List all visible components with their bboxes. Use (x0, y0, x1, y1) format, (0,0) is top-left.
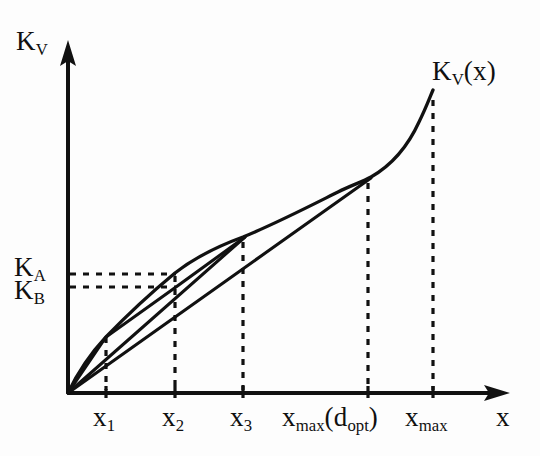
xmax-dopt-paren-open: (d (325, 402, 348, 432)
x-tick-label-x2: x2 (162, 404, 184, 434)
xmax-dopt-paren-close: ) (369, 402, 378, 432)
y-tick-label-kb: KB (14, 277, 45, 307)
curve-label: KV(x) (432, 58, 496, 88)
x-axis (68, 385, 510, 401)
curve-label-main: K (432, 56, 452, 86)
xmax-dopt-paren-sub: opt (347, 416, 368, 435)
x2-sub: 2 (176, 416, 184, 435)
x-axis-label: x (496, 404, 510, 431)
xmax-main: x (405, 402, 419, 432)
x3-main: x (230, 402, 244, 432)
x-tick-label-x3: x3 (230, 404, 252, 434)
x3-sub: 3 (244, 416, 252, 435)
curve-label-arg: (x) (464, 56, 496, 86)
xmax-dopt-main: x (282, 402, 296, 432)
x-tick-label-xmax-dopt: xmax(dopt) (282, 404, 378, 434)
xmax-sub: max (419, 416, 448, 435)
dashed-guides (70, 100, 433, 390)
kv-curve (68, 90, 433, 393)
x-tick-label-x1: x1 (93, 404, 115, 434)
xmax-dopt-sub: max (296, 416, 325, 435)
x-tick-label-xmax: xmax (405, 404, 448, 434)
kb-sub: B (34, 289, 45, 308)
kb-main: K (14, 275, 34, 305)
figure-root: KV KV(x) KA KB x1 x2 x3 xmax(dopt) xmax … (0, 0, 540, 456)
secant-origin-to-x3 (68, 237, 245, 393)
x2-main: x (162, 402, 176, 432)
x1-sub: 1 (107, 416, 115, 435)
y-axis-label-sub: V (36, 40, 48, 59)
y-axis-label: KV (16, 28, 48, 58)
y-axis-label-main: K (16, 26, 36, 56)
curve-label-sub: V (452, 70, 464, 89)
y-axis (60, 40, 76, 393)
x1-main: x (93, 402, 107, 432)
